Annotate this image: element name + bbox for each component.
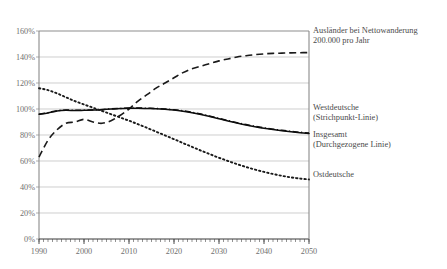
y-tick-label: 40% — [20, 183, 35, 192]
x-tick-label: 2010 — [121, 247, 137, 256]
x-tick-label: 1990 — [31, 247, 47, 256]
y-tick-label: 140% — [16, 53, 35, 62]
y-tick-label: 60% — [20, 157, 35, 166]
series-label-westdeutsche: Westdeutsche (Strichpunkt-Linie) — [313, 103, 445, 124]
y-tick-label: 100% — [16, 105, 35, 114]
y-tick-label: 80% — [20, 131, 35, 140]
series-line-dotted — [39, 88, 309, 179]
source-note — [3, 260, 443, 269]
x-tick-label: 2050 — [301, 247, 317, 256]
y-tick-label: 20% — [20, 209, 35, 218]
x-tick-label: 2040 — [256, 247, 272, 256]
y-tick-label: 0% — [24, 235, 35, 244]
x-tick-label: 2030 — [211, 247, 227, 256]
series-label-ostdeutsche: Ostdeutsche — [313, 170, 445, 180]
series-label-insgesamt: Insgesamt (Durchgezogene Linie) — [313, 130, 445, 151]
x-tick-label: 2000 — [76, 247, 92, 256]
population-projection-chart: 160%140%120%100%80%60%40%20%0%1990200020… — [0, 0, 447, 269]
x-tick-label: 2020 — [166, 247, 182, 256]
y-tick-label: 160% — [16, 27, 35, 36]
series-label-auslaender: Ausländer bei Nettowanderung 200.000 pro… — [313, 26, 445, 47]
series-line-dashed — [39, 53, 309, 158]
y-tick-label: 120% — [16, 79, 35, 88]
